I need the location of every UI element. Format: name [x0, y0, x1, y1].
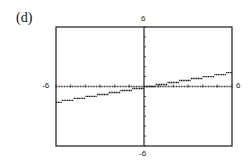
plot-area: [0, 0, 251, 164]
